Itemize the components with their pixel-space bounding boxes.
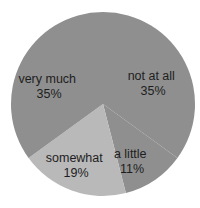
pie-chart: not at all 35% a little 11% somewhat 19%… bbox=[0, 0, 200, 208]
slice-percent: 11% bbox=[120, 162, 144, 176]
slice-name: somewhat bbox=[46, 151, 103, 165]
slice-percent: 35% bbox=[36, 87, 61, 101]
slice-percent: 19% bbox=[63, 166, 88, 180]
pie-slices bbox=[11, 12, 195, 196]
slice-name: a little bbox=[114, 147, 147, 161]
slice-name: very much bbox=[18, 72, 76, 86]
slice-name: not at all bbox=[128, 69, 175, 83]
slice-percent: 35% bbox=[140, 84, 165, 98]
